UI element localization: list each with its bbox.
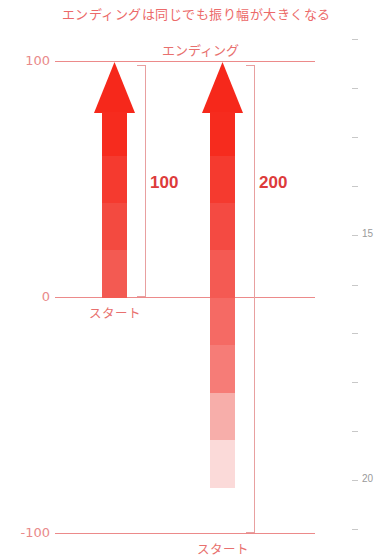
arrow-segment xyxy=(102,250,127,298)
arrow-segment xyxy=(102,112,127,156)
arrow-segment xyxy=(102,203,127,250)
start-label-arrow-200: スタート xyxy=(178,539,268,558)
arrow-shaft xyxy=(102,112,127,298)
arrow-shaft xyxy=(210,112,235,488)
line-minus-100 xyxy=(55,533,315,534)
arrow-head-icon xyxy=(202,62,243,114)
margin-number-15: 15 xyxy=(362,228,373,239)
start-label-arrow-100: スタート xyxy=(70,303,160,322)
margin-tick xyxy=(352,529,358,530)
arrow-segment xyxy=(210,440,235,488)
margin-tick xyxy=(352,137,358,138)
margin-tick xyxy=(352,382,358,383)
arrow-200 xyxy=(202,62,243,490)
arrow-segment xyxy=(210,298,235,345)
margin-tick xyxy=(352,235,358,236)
margin-tick xyxy=(352,88,358,89)
diagram-title: エンディングは同じでも振り幅が大きくなる xyxy=(0,4,392,23)
y-label-minus-100: -100 xyxy=(0,525,50,540)
arrow-head-icon xyxy=(94,62,135,114)
margin-tick xyxy=(352,39,358,40)
margin-tick xyxy=(352,431,358,432)
margin-tick xyxy=(352,285,358,286)
arrow-segment xyxy=(102,156,127,203)
arrow-100 xyxy=(94,62,135,298)
arrow-segment xyxy=(210,156,235,203)
margin-tick xyxy=(352,186,358,187)
arrow-segment xyxy=(210,250,235,298)
arrow-segment xyxy=(210,112,235,156)
margin-tick xyxy=(352,480,358,481)
arrow-segment xyxy=(210,345,235,393)
margin-tick xyxy=(352,333,358,334)
margin-number-20: 20 xyxy=(362,473,373,484)
amount-label-200: 200 xyxy=(259,173,287,193)
y-label-0: 0 xyxy=(0,289,50,304)
bracket-arrow-100 xyxy=(137,65,146,297)
arrow-segment xyxy=(210,393,235,440)
arrow-segment xyxy=(210,203,235,250)
bracket-arrow-200 xyxy=(246,65,255,533)
y-label-100: 100 xyxy=(0,53,50,68)
amount-label-100: 100 xyxy=(150,173,178,193)
ending-label: エンディング xyxy=(130,40,270,59)
